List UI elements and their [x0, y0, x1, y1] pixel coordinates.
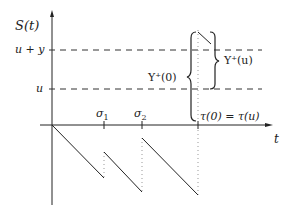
- y-axis-arrow-icon: [50, 10, 54, 17]
- u-label: u: [36, 83, 43, 94]
- sigma1-label: σ1: [96, 108, 109, 122]
- x-axis-label: t: [274, 133, 279, 145]
- sigma2-base: σ: [134, 107, 142, 120]
- surplus-process-diagram: [0, 0, 304, 213]
- tau-label: τ(0) = τ(u): [200, 111, 260, 122]
- y-axis-label: S(t): [15, 19, 39, 32]
- process-segment-4: [198, 32, 211, 44]
- sigma2-sub: 2: [142, 113, 147, 122]
- brace-left-icon: [187, 32, 196, 121]
- sigma1-base: σ: [96, 107, 104, 120]
- sigma2-label: σ2: [134, 108, 147, 122]
- brace-right-icon: [210, 32, 219, 89]
- process-segment-3: [142, 138, 198, 195]
- brace-right-label: Y⁺(u): [224, 55, 253, 66]
- brace-left-label: Y⁺(0): [148, 72, 177, 83]
- x-axis-arrow-icon: [265, 123, 273, 127]
- process-segment-2: [104, 152, 142, 192]
- process-segment-1: [52, 125, 104, 178]
- sigma1-sub: 1: [104, 113, 109, 122]
- u-plus-y-label: u + y: [15, 44, 45, 55]
